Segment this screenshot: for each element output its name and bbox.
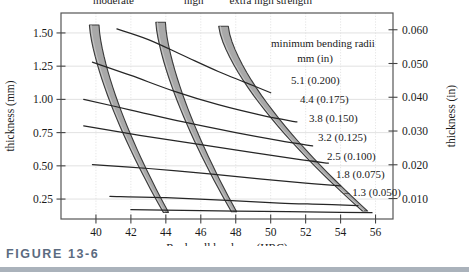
y-tick-label-right: 0.010 [402, 193, 428, 205]
radius-label-3-2: 3.2 (0.125) [318, 131, 367, 144]
y-tick-label-right: 0.030 [402, 125, 428, 137]
caption-row: FIGURE 13-6 [0, 246, 469, 276]
x-tick-label: 46 [195, 226, 207, 238]
y-tick-label-left: 1.50 [33, 27, 53, 39]
x-tick-label: 44 [160, 226, 172, 238]
y-tick-label-left: 0.25 [33, 193, 53, 205]
y-tick-label-right: 0.050 [402, 58, 428, 70]
radius-label-5-1: 5.1 (0.200) [291, 74, 340, 87]
radius-label-1-3: – 1.3 (0.050) [343, 186, 401, 199]
strength-label: extra high strength [229, 0, 312, 6]
x-tick-label: 40 [90, 226, 102, 238]
radius-label-1-8: 1.8 (0.075) [336, 168, 385, 181]
annotation-subtitle: mm (in) [297, 52, 333, 65]
x-tick-label: 52 [300, 226, 312, 238]
y-tick-label-right: 0.040 [402, 91, 428, 103]
y-tick-label-left: 1.25 [33, 60, 53, 72]
chart-plot-area: 0.250.500.751.001.251.500.0100.0200.0300… [0, 0, 469, 246]
strength-label: high [184, 0, 204, 6]
bending-radii-chart: 0.250.500.751.001.251.500.0100.0200.0300… [0, 0, 469, 246]
y-tick-label-left: 0.75 [33, 127, 53, 139]
radius-label-2-5: 2.5 (0.100) [327, 150, 376, 163]
x-tick-label: 56 [370, 226, 382, 238]
radius-label-4-4: 4.4 (0.175) [300, 93, 349, 106]
y-tick-label-left: 0.50 [33, 160, 53, 172]
figure-13-6: 0.250.500.751.001.251.500.0100.0200.0300… [0, 0, 469, 276]
annotation-title: minimum bending radii [271, 37, 375, 49]
radius-label-3-8: 3.8 (0.150) [309, 112, 358, 125]
x-tick-label: 50 [265, 226, 277, 238]
x-tick-label: 48 [230, 226, 242, 238]
x-tick-label: 42 [125, 226, 137, 238]
caption-rule [0, 267, 469, 272]
y-axis-title-right: thickness (in) [445, 85, 458, 147]
strength-label: moderate [93, 0, 134, 6]
y-tick-label-right: 0.020 [402, 159, 428, 171]
y-tick-label-left: 1.00 [33, 93, 53, 105]
figure-caption: FIGURE 13-6 [6, 247, 99, 261]
y-axis-title-left: thickness (mm) [4, 80, 17, 151]
y-tick-label-right: 0.060 [402, 24, 428, 36]
x-tick-label: 54 [335, 226, 347, 238]
